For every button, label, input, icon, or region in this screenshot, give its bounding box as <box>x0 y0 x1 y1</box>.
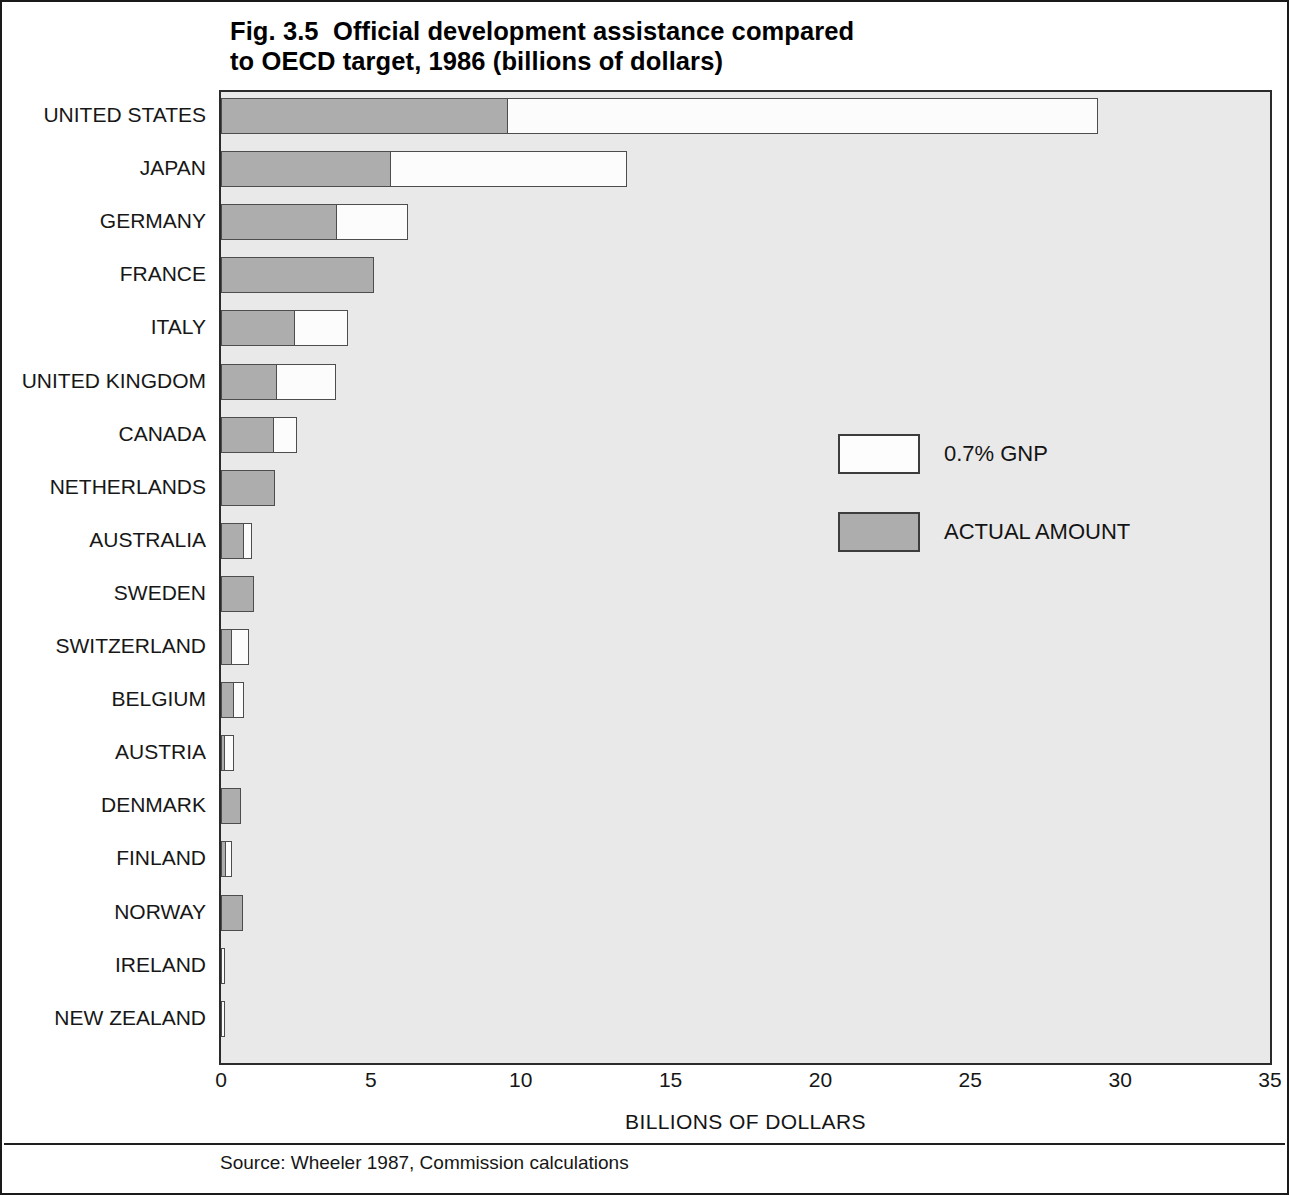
bar-segment-target <box>233 682 244 718</box>
x-tick-label: 0 <box>215 1068 227 1092</box>
bar-row <box>221 1001 225 1037</box>
source-divider <box>4 1143 1285 1145</box>
category-label-italy: ITALY <box>0 315 206 339</box>
bar-row <box>221 151 627 187</box>
bar-row <box>221 576 254 612</box>
actual-swatch <box>838 512 920 552</box>
bar-segment-actual <box>221 788 241 824</box>
bar-segment-actual <box>221 470 275 506</box>
x-tick-label: 20 <box>809 1068 832 1092</box>
bar-row <box>221 98 1098 134</box>
bar-segment-actual <box>221 523 245 559</box>
bar-row <box>221 895 243 931</box>
legend-label: 0.7% GNP <box>944 441 1048 467</box>
bar-row <box>221 523 252 559</box>
bar-row <box>221 204 408 240</box>
bar-segment-actual <box>221 151 392 187</box>
bar-segment-target <box>225 841 232 877</box>
category-label-sweden: SWEDEN <box>0 581 206 605</box>
category-label-germany: GERMANY <box>0 209 206 233</box>
legend-item: ACTUAL AMOUNT <box>838 510 1130 554</box>
bar-segment-actual <box>221 204 338 240</box>
bar-row <box>221 310 348 346</box>
category-label-denmark: DENMARK <box>0 793 206 817</box>
category-label-norway: NORWAY <box>0 900 206 924</box>
bar-row <box>221 788 241 824</box>
bar-segment-actual <box>221 257 374 293</box>
bar-segment-actual <box>221 895 243 931</box>
bar-segment-actual <box>221 417 275 453</box>
category-label-ireland: IRELAND <box>0 953 206 977</box>
bar-row <box>221 841 232 877</box>
bar-row <box>221 948 225 984</box>
bar-segment-target <box>243 523 252 559</box>
bar-segment-target <box>336 204 408 240</box>
bar-segment-target <box>294 310 348 346</box>
bar-segment-actual <box>221 576 254 612</box>
bar-segment-actual <box>221 98 509 134</box>
x-axis-ticks: 05101520253035 <box>219 1068 1272 1102</box>
title-line-2: to OECD target, 1986 (billions of dollar… <box>230 46 1130 76</box>
bar-segment-target <box>224 735 234 771</box>
category-label-united-states: UNITED STATES <box>0 103 206 127</box>
bar-row <box>221 364 336 400</box>
category-label-united-kingdom: UNITED KINGDOM <box>0 369 206 393</box>
bar-row <box>221 257 374 293</box>
bar-row <box>221 417 297 453</box>
chart-legend: 0.7% GNPACTUAL AMOUNT <box>838 432 1130 588</box>
category-label-australia: AUSTRALIA <box>0 528 206 552</box>
x-tick-label: 35 <box>1258 1068 1281 1092</box>
bar-row <box>221 735 234 771</box>
x-tick-label: 30 <box>1108 1068 1131 1092</box>
bar-segment-target <box>273 417 297 453</box>
bar-segment-actual <box>221 364 278 400</box>
bar-segment-target <box>276 364 336 400</box>
bar-segment-target <box>390 151 627 187</box>
source-note: Source: Wheeler 1987, Commission calcula… <box>220 1152 629 1174</box>
category-label-japan: JAPAN <box>0 156 206 180</box>
figure-container: Fig. 3.5 Official development assistance… <box>0 0 1289 1195</box>
bar-row <box>221 470 275 506</box>
legend-label: ACTUAL AMOUNT <box>944 519 1130 545</box>
x-axis-title: BILLIONS OF DOLLARS <box>219 1110 1272 1134</box>
category-label-netherlands: NETHERLANDS <box>0 475 206 499</box>
x-tick-label: 15 <box>659 1068 682 1092</box>
x-tick-label: 25 <box>959 1068 982 1092</box>
title-line-1: Fig. 3.5 Official development assistance… <box>230 16 1130 46</box>
bar-row <box>221 629 249 665</box>
category-label-finland: FINLAND <box>0 846 206 870</box>
bar-segment-target <box>507 98 1097 134</box>
category-label-belgium: BELGIUM <box>0 687 206 711</box>
target-swatch <box>838 434 920 474</box>
bar-row <box>221 682 244 718</box>
x-tick-label: 10 <box>509 1068 532 1092</box>
plot-area: 0.7% GNPACTUAL AMOUNT <box>219 90 1272 1065</box>
category-label-france: FRANCE <box>0 262 206 286</box>
x-tick-label: 5 <box>365 1068 377 1092</box>
bar-segment-target <box>231 629 249 665</box>
bar-segment-target <box>221 1001 225 1037</box>
category-label-canada: CANADA <box>0 422 206 446</box>
figure-title: Fig. 3.5 Official development assistance… <box>230 16 1130 76</box>
bar-segment-target <box>221 948 225 984</box>
category-label-austria: AUSTRIA <box>0 740 206 764</box>
legend-item: 0.7% GNP <box>838 432 1130 476</box>
category-label-new-zealand: NEW ZEALAND <box>0 1006 206 1030</box>
bar-segment-actual <box>221 310 296 346</box>
category-label-switzerland: SWITZERLAND <box>0 634 206 658</box>
